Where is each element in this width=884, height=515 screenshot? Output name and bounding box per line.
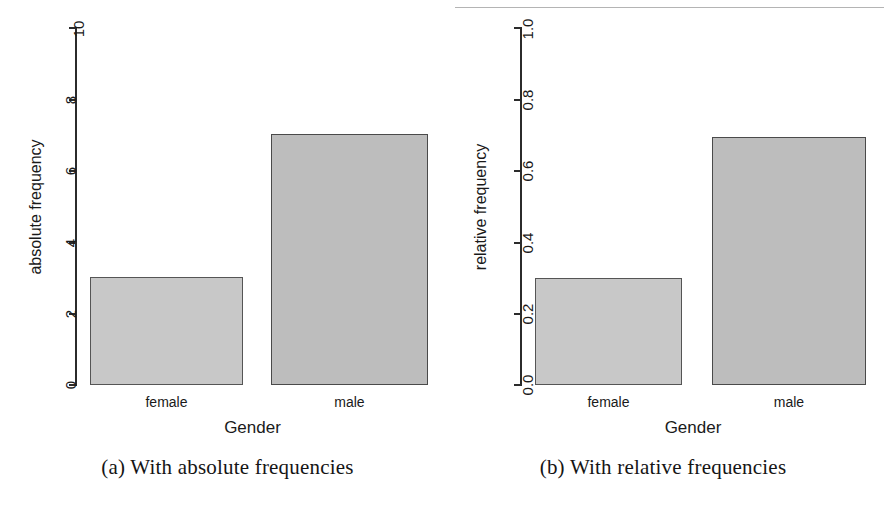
y-tick-text-4: 4 — [63, 239, 78, 247]
plot-area-absolute: 0 2 4 6 8 10 absolute frequency female m… — [0, 0, 455, 445]
y-axis-spine — [75, 27, 77, 386]
bar-male — [271, 134, 428, 385]
bar-male — [712, 137, 866, 385]
y-axis-tick-label-0-6: 0.6 — [520, 171, 535, 192]
y-tick-text-2: 2 — [63, 310, 78, 318]
x-axis-label-male: male — [712, 394, 866, 410]
y-tick-text-10: 10 — [71, 21, 86, 38]
panel-caption-b: (b) With relative frequencies — [442, 455, 884, 480]
y-axis-tick-label-10: 10 — [71, 29, 86, 46]
y-axis-tick-label-0-2: 0.2 — [520, 314, 535, 335]
y-axis-tick-label-0-0: 0.0 — [520, 385, 535, 406]
y-axis-tick-label-2: 2 — [63, 314, 78, 322]
figure-panel-absolute: 0 2 4 6 8 10 absolute frequency female m… — [0, 0, 455, 515]
y-tick-text-1-0: 1.0 — [520, 19, 535, 40]
panel-caption-a: (a) With absolute frequencies — [0, 455, 455, 480]
y-tick-text-8: 8 — [63, 96, 78, 104]
y-tick-text-0-4: 0.4 — [520, 233, 535, 254]
y-axis-tick-label-1-0: 1.0 — [520, 29, 535, 50]
x-axis-title: Gender — [75, 418, 430, 438]
bar-female — [90, 277, 243, 385]
y-axis-tick-label-0-8: 0.8 — [520, 100, 535, 121]
y-axis-tick-label-0-4: 0.4 — [520, 243, 535, 264]
figure-panel-relative: 0.0 0.2 0.4 0.6 0.8 1.0 relative frequen… — [442, 0, 884, 515]
y-axis-title: relative frequency — [472, 97, 490, 317]
x-axis-label-female: female — [535, 394, 682, 410]
y-tick-text-0: 0 — [63, 381, 78, 389]
y-tick-text-6: 6 — [63, 167, 78, 175]
y-tick-text-0-6: 0.6 — [520, 161, 535, 182]
y-axis-tick-label-4: 4 — [63, 243, 78, 251]
y-axis-tick-label-6: 6 — [63, 171, 78, 179]
x-axis-title: Gender — [520, 418, 866, 438]
y-tick-text-0-0: 0.0 — [520, 375, 535, 396]
x-axis-label-female: female — [90, 394, 243, 410]
y-axis-title: absolute frequency — [27, 97, 45, 317]
y-tick-text-0-2: 0.2 — [520, 304, 535, 325]
y-axis-tick-label-0: 0 — [63, 385, 78, 393]
x-axis-label-male: male — [271, 394, 428, 410]
y-axis-tick-label-8: 8 — [63, 100, 78, 108]
bar-female — [535, 278, 682, 385]
y-tick-text-0-8: 0.8 — [520, 90, 535, 111]
plot-area-relative: 0.0 0.2 0.4 0.6 0.8 1.0 relative frequen… — [442, 0, 884, 445]
